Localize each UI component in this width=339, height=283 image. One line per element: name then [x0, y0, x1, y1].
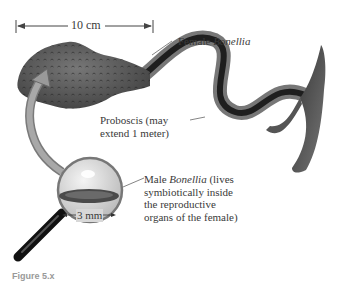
proboscis-leader-line [190, 117, 205, 120]
label-female-bonellia: Female Bonellia [178, 35, 250, 48]
scale-label-10cm: 10 cm [71, 19, 101, 32]
label-male-bonellia: Male Bonellia (lives symbiotically insid… [144, 173, 238, 223]
label-proboscis: Proboscis (may extend 1 meter) [100, 114, 169, 139]
magnifying-glass [18, 158, 122, 257]
female-body [17, 42, 150, 109]
scale-label-3mm: 3 mm [76, 209, 103, 222]
female-proboscis [140, 38, 325, 173]
figure-caption: Figure 5.x [12, 270, 55, 283]
